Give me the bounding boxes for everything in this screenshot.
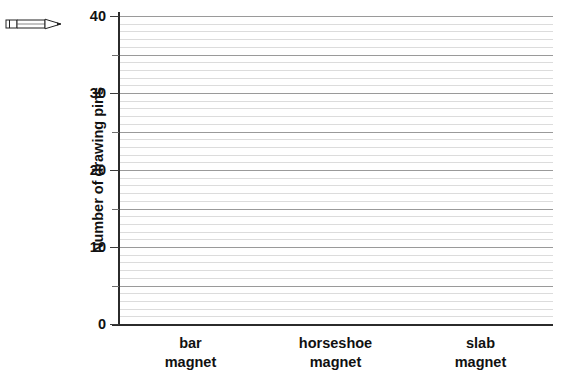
minor-gridline <box>118 155 553 156</box>
y-axis-tick-minor <box>112 286 119 287</box>
x-axis-category-label-line: magnet <box>263 353 408 372</box>
minor-gridline <box>118 270 553 271</box>
minor-gridline <box>118 101 553 102</box>
y-axis-title: Number of drawing pins <box>90 55 106 285</box>
major-gridline <box>118 93 553 94</box>
y-axis-tick-major <box>110 93 119 94</box>
minor-gridline <box>118 47 553 48</box>
major-gridline <box>118 132 553 133</box>
minor-gridline <box>118 278 553 279</box>
major-gridline <box>118 16 553 17</box>
minor-gridline <box>118 262 553 263</box>
x-axis-category-label-line: horseshoe <box>299 335 372 351</box>
minor-gridline <box>118 24 553 25</box>
minor-gridline <box>118 301 553 302</box>
x-axis-line <box>112 324 553 326</box>
minor-gridline <box>118 31 553 32</box>
plot-area <box>118 16 553 324</box>
x-axis-category-label: slab magnet <box>408 334 553 374</box>
minor-gridline <box>118 124 553 125</box>
y-axis-tick-minor <box>112 132 119 133</box>
minor-gridline <box>118 193 553 194</box>
minor-gridline <box>118 108 553 109</box>
y-axis-tick-major <box>110 247 119 248</box>
x-axis-category-label: bar magnet <box>118 334 263 374</box>
y-axis-title-wrapper: Number of drawing pins <box>60 0 84 340</box>
minor-gridline <box>118 62 553 63</box>
minor-gridline <box>118 139 553 140</box>
x-axis-category-label-line: magnet <box>408 353 553 372</box>
x-axis-category-label: horseshoe magnet <box>263 334 408 374</box>
minor-gridline <box>118 316 553 317</box>
major-gridline <box>118 170 553 171</box>
y-axis-tick-minor <box>112 209 119 210</box>
minor-gridline <box>118 224 553 225</box>
minor-gridline <box>118 147 553 148</box>
major-gridline <box>118 247 553 248</box>
y-axis-tick-major <box>110 16 119 17</box>
minor-gridline <box>118 162 553 163</box>
minor-gridline <box>118 70 553 71</box>
minor-gridline <box>118 255 553 256</box>
major-gridline <box>118 55 553 56</box>
y-axis-tick-major <box>110 324 119 325</box>
x-axis-category-label-line: bar <box>179 335 202 351</box>
minor-gridline <box>118 232 553 233</box>
minor-gridline <box>118 293 553 294</box>
minor-gridline <box>118 78 553 79</box>
x-axis-category-labels: bar magnethorseshoe magnetslab magnet <box>118 334 553 374</box>
x-axis-category-label-line: slab <box>466 335 495 351</box>
minor-gridline <box>118 239 553 240</box>
minor-gridline <box>118 309 553 310</box>
y-axis-tick-major <box>110 170 119 171</box>
y-axis-line <box>118 12 120 326</box>
minor-gridline <box>118 178 553 179</box>
minor-gridline <box>118 216 553 217</box>
minor-gridline <box>118 201 553 202</box>
bar-chart: 010203040 Number of drawing pins bar mag… <box>0 0 565 374</box>
minor-gridline <box>118 39 553 40</box>
minor-gridline <box>118 85 553 86</box>
major-gridline <box>118 286 553 287</box>
x-axis-category-label-line: magnet <box>118 353 263 372</box>
major-gridline <box>118 209 553 210</box>
minor-gridline <box>118 185 553 186</box>
y-axis-tick-minor <box>112 55 119 56</box>
minor-gridline <box>118 116 553 117</box>
